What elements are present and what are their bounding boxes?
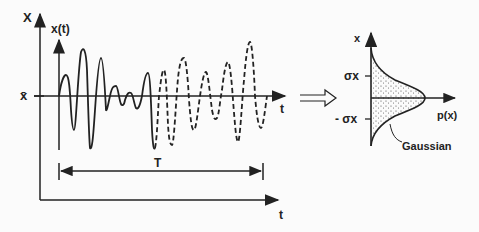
gaussian-label: Gaussian <box>402 140 452 152</box>
sigma-pos-label: σx <box>344 69 359 83</box>
sigma-neg-label: - σx <box>335 112 358 126</box>
period-label: T <box>154 156 162 170</box>
outer-x-label: t <box>279 208 283 222</box>
signal-waveform-solid <box>59 49 155 149</box>
gaussian-fill <box>371 48 425 146</box>
mean-label: x̄ <box>20 88 28 103</box>
diagram-canvas: X t x(t) x̄ t T x σx - σx p(x) Gaussian <box>0 0 479 232</box>
gaussian-leader-line <box>390 124 402 142</box>
signal-waveform-dashed <box>155 42 267 148</box>
density-x-label: p(x) <box>437 109 458 121</box>
outer-y-label: X <box>23 10 32 25</box>
signal-label: x(t) <box>51 22 70 36</box>
signal-time-label: t <box>280 102 284 116</box>
transform-arrow-icon <box>300 90 336 106</box>
density-y-label: x <box>354 32 361 44</box>
